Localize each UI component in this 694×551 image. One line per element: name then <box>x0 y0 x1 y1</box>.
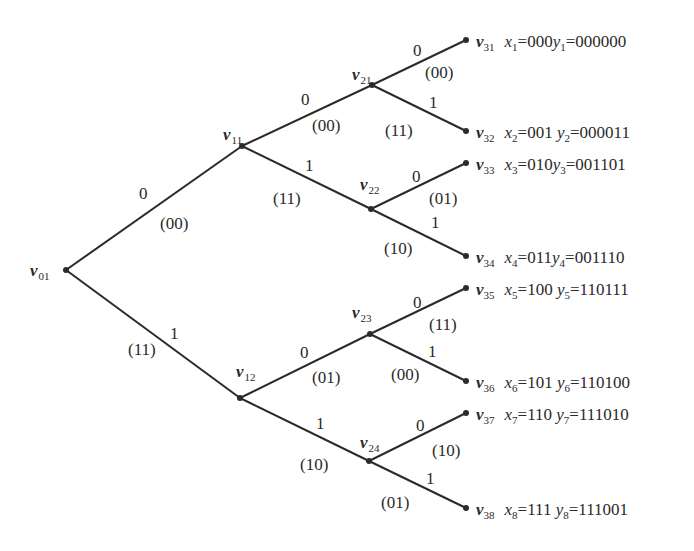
leaf-row-8: v38x8=111 y8=111001 <box>476 501 628 521</box>
node-label-v24: v24 <box>360 434 380 454</box>
edge-output-v12-v23: (01) <box>312 369 340 386</box>
edge-output-v11-v21: (00) <box>312 117 340 134</box>
edge-output-v22-v34: (10) <box>384 240 412 257</box>
edge-output-v12-v24: (10) <box>300 456 328 473</box>
edge-output-v01-v12: (11) <box>128 341 156 358</box>
edge-output-v11-v22: (11) <box>273 190 301 207</box>
edge-input-v01-v12: 1 <box>170 325 179 342</box>
code-tree-canvas <box>0 0 694 551</box>
edge-v01-v12 <box>66 270 240 398</box>
leaf-row-3: v33x3=010y3=001101 <box>476 156 626 176</box>
node-dot-v34 <box>463 253 469 259</box>
leaf-row-7: v37x7=110 y7=111010 <box>476 406 629 426</box>
node-dot-v33 <box>463 160 469 166</box>
node-dot-v22 <box>368 206 374 212</box>
node-label-v12: v12 <box>236 363 256 383</box>
edge-output-v24-v37: (10) <box>432 442 460 459</box>
edge-input-v24-v37: 0 <box>416 417 425 434</box>
node-label-v01: v01 <box>30 262 50 282</box>
edge-input-v01-v11: 0 <box>139 185 148 202</box>
node-dot-v01 <box>63 267 69 273</box>
edge-output-v24-v38: (01) <box>381 494 409 511</box>
edge-input-v21-v31: 0 <box>413 42 422 59</box>
node-dot-v37 <box>463 410 469 416</box>
edge-output-v01-v11: (00) <box>160 215 188 232</box>
node-dot-v38 <box>463 505 469 511</box>
edge-input-v22-v34: 1 <box>431 214 440 231</box>
edge-output-v21-v32: (11) <box>385 122 413 139</box>
node-dot-v35 <box>463 285 469 291</box>
node-dot-v23 <box>367 331 373 337</box>
edge-input-v12-v23: 0 <box>300 344 309 361</box>
edge-input-v11-v22: 1 <box>305 157 314 174</box>
leaf-row-5: v35x5=100 y5=110111 <box>476 281 629 301</box>
node-dot-v32 <box>463 128 469 134</box>
edge-output-v21-v31: (00) <box>425 64 453 81</box>
tree-edges <box>66 40 466 508</box>
edge-v01-v11 <box>66 146 242 270</box>
node-label-v23: v23 <box>352 304 372 324</box>
edge-output-v23-v35: (11) <box>429 316 457 333</box>
node-dot-v36 <box>463 378 469 384</box>
leaf-row-6: v36x6=101 y6=110100 <box>476 374 630 394</box>
node-label-v22: v22 <box>360 176 380 196</box>
edge-v12-v24 <box>240 398 369 461</box>
leaf-row-1: v31x1=000y1=000000 <box>476 33 626 53</box>
edge-input-v24-v38: 1 <box>426 470 435 487</box>
edge-input-v21-v32: 1 <box>429 94 438 111</box>
leaf-row-2: v32x2=001 y2=000011 <box>476 124 630 144</box>
tree-node-dots <box>63 37 469 511</box>
edge-output-v22-v33: (01) <box>429 190 457 207</box>
edge-input-v22-v33: 0 <box>412 168 421 185</box>
node-dot-v31 <box>463 37 469 43</box>
node-label-v21: v21 <box>352 66 372 86</box>
edge-input-v11-v21: 0 <box>301 91 310 108</box>
node-dot-v24 <box>366 458 372 464</box>
edge-input-v23-v36: 1 <box>428 343 437 360</box>
edge-output-v23-v36: (00) <box>391 366 419 383</box>
node-label-v11: v11 <box>223 126 242 146</box>
node-dot-v12 <box>237 395 243 401</box>
edge-input-v12-v24: 1 <box>316 415 325 432</box>
edge-input-v23-v35: 0 <box>413 294 422 311</box>
leaf-row-4: v34x4=011y4=001110 <box>476 249 624 269</box>
